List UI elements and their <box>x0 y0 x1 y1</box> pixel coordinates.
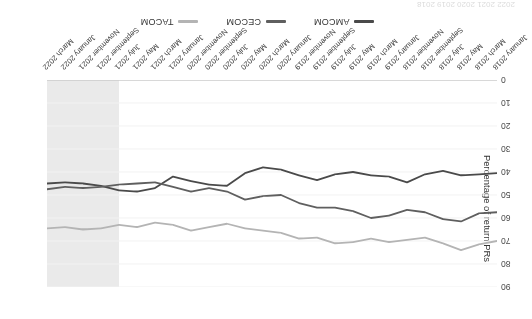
chart-legend: AMCOMCECOMTACOM <box>0 9 515 35</box>
legend-item-tacom[interactable]: TACOM <box>141 17 199 27</box>
legend-item-cecom[interactable]: CECOM <box>226 17 286 27</box>
legend-label: CECOM <box>226 17 261 27</box>
legend-swatch-icon <box>266 21 286 24</box>
legend-swatch-icon <box>354 21 374 24</box>
clipped-edge-text: 2022 2021 2020 2019 2018 <box>355 0 515 7</box>
legend-swatch-icon <box>178 21 198 24</box>
legend-label: AMCOM <box>314 17 350 27</box>
legend-item-amcom[interactable]: AMCOM <box>314 17 375 27</box>
clipped-edge-label: 2022 2021 2020 2019 2018 <box>355 0 515 7</box>
legend-label: TACOM <box>141 17 174 27</box>
